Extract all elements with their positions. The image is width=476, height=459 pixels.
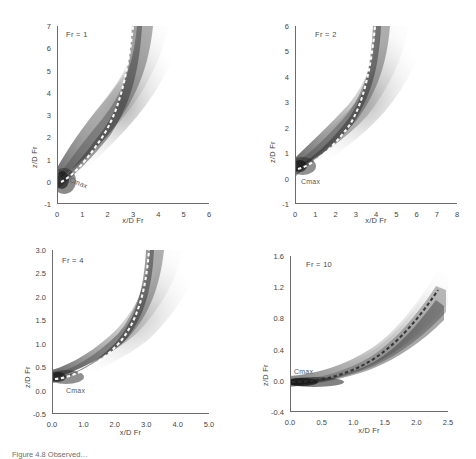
cmax-label: Cmax	[301, 178, 320, 185]
x-tick-label: 0	[55, 210, 59, 219]
y-tick-label: -0.5	[22, 410, 46, 419]
x-axis-line	[290, 411, 448, 412]
y-tick-label: 1	[27, 155, 51, 164]
fr-annotation: Fr = 10	[306, 260, 332, 269]
y-tick-label: 0.8	[260, 314, 284, 323]
y-axis-line	[57, 26, 58, 204]
x-axis-title: x/D Fr	[290, 426, 448, 435]
x-tick-label: 0.0	[285, 418, 295, 427]
y-tick-label: 1.5	[22, 316, 46, 325]
x-tick-label: 1	[313, 210, 317, 219]
y-tick-label: 1.2	[260, 283, 284, 292]
x-axis-line	[52, 413, 209, 414]
y-tick-label: 6	[27, 44, 51, 53]
y-tick-label: 2	[265, 123, 289, 132]
x-tick-label: 5	[394, 210, 398, 219]
panel-fr-4: z/D Fr	[0, 236, 238, 446]
y-axis-line	[52, 250, 53, 414]
fr-annotation: Fr = 2	[315, 30, 337, 39]
concentration-field	[290, 256, 448, 412]
x-tick-label: 0.0	[47, 420, 57, 429]
y-tick-label: 0.4	[260, 345, 284, 354]
y-axis-line	[290, 256, 291, 412]
y-tick-label: 1.6	[260, 252, 284, 261]
x-tick-label: 1	[80, 210, 84, 219]
x-axis-title: x/D Fr	[52, 428, 209, 437]
x-tick-label: 3	[131, 210, 135, 219]
y-axis-line	[295, 26, 296, 204]
x-tick-label: 1.5	[380, 418, 390, 427]
x-tick-label: 2.0	[110, 420, 120, 429]
plot-area: Fr = 2 Cmax	[295, 26, 457, 204]
y-tick-label: 2	[27, 133, 51, 142]
y-tick-label: 0.5	[22, 363, 46, 372]
x-tick-label: 6	[414, 210, 418, 219]
y-tick-label: 2.0	[22, 292, 46, 301]
x-tick-label: 0	[293, 210, 297, 219]
y-tick-label: 5	[265, 47, 289, 56]
x-tick-label: 0.5	[316, 418, 326, 427]
y-tick-label: 2.5	[22, 269, 46, 278]
panel-fr-1: z/D Fr	[0, 8, 238, 230]
x-tick-label: 2.0	[411, 418, 421, 427]
y-tick-label: 0.0	[22, 386, 46, 395]
fr-annotation: Fr = 4	[62, 256, 84, 265]
x-tick-label: 4	[156, 210, 160, 219]
y-tick-label: 3	[27, 111, 51, 120]
y-tick-label: -0.4	[260, 408, 284, 417]
y-tick-label: 1	[265, 149, 289, 158]
y-tick-label: -1	[27, 200, 51, 209]
y-tick-label: 3.0	[22, 246, 46, 255]
cmax-label: Cmax	[66, 387, 85, 394]
y-tick-label: 1.0	[22, 339, 46, 348]
plot-area: Fr = 10 Cmax	[290, 256, 448, 412]
x-tick-label: 4	[374, 210, 378, 219]
y-tick-label: 4	[265, 72, 289, 81]
x-tick-label: 7	[435, 210, 439, 219]
y-tick-label: -1	[265, 200, 289, 209]
fr-annotation: Fr = 1	[66, 30, 88, 39]
plot-area: Fr = 4 Cmax	[52, 250, 209, 414]
cmax-label: Cmax	[294, 368, 313, 375]
x-tick-label: 6	[207, 210, 211, 219]
y-tick-label: 4	[27, 88, 51, 97]
x-tick-label: 3.0	[141, 420, 151, 429]
plot-area: Fr = 1 Cmax	[57, 26, 209, 204]
x-tick-label: 2	[106, 210, 110, 219]
x-tick-label: 5	[182, 210, 186, 219]
concentration-field	[57, 26, 209, 204]
x-tick-label: 1.0	[348, 418, 358, 427]
x-tick-label: 2	[333, 210, 337, 219]
x-tick-label: 4.0	[172, 420, 182, 429]
x-tick-label: 1.0	[78, 420, 88, 429]
x-tick-label: 2.5	[443, 418, 453, 427]
y-tick-label: 0	[265, 174, 289, 183]
y-tick-label: 6	[265, 22, 289, 31]
panel-fr-10: z/D Fr	[238, 236, 476, 446]
x-tick-label: 3	[354, 210, 358, 219]
y-tick-label: 3	[265, 98, 289, 107]
y-tick-label: 0.0	[260, 376, 284, 385]
y-tick-label: 7	[27, 22, 51, 31]
y-tick-label: 5	[27, 66, 51, 75]
y-tick-label: 0	[27, 177, 51, 186]
x-tick-label: 5.0	[204, 420, 214, 429]
figure-caption: Figure 4.8 Observed…	[12, 450, 242, 459]
panel-fr-2: z/D Fr	[238, 8, 476, 230]
x-tick-label: 8	[455, 210, 459, 219]
